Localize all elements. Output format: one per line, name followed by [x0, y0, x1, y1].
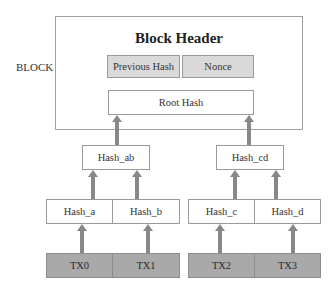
hash-cd-node: Hash_cd [216, 145, 284, 170]
previous-hash-field: Previous Hash [107, 55, 180, 78]
arrow-up-icon [91, 176, 95, 199]
block-label: BLOCK [16, 61, 53, 73]
arrow-up-icon [146, 230, 150, 253]
root-hash-node: Root Hash [108, 90, 254, 115]
hash-d-node: Hash_d [254, 199, 321, 224]
arrow-up-icon [135, 176, 139, 199]
arrow-up-icon [247, 121, 251, 145]
arrow-up-icon [274, 176, 278, 199]
hash-ab-node: Hash_ab [82, 145, 150, 170]
tx3-node: TX3 [254, 253, 321, 278]
arrow-up-icon [80, 230, 84, 253]
tx0-node: TX0 [46, 253, 113, 278]
tx1-node: TX1 [112, 253, 180, 278]
nonce-field: Nonce [182, 55, 254, 78]
arrow-up-icon [218, 230, 222, 253]
hash-a-node: Hash_a [46, 199, 113, 224]
hash-b-node: Hash_b [112, 199, 180, 224]
arrow-up-icon [233, 176, 237, 199]
block-header-title: Block Header [55, 30, 303, 47]
arrow-up-icon [291, 230, 295, 253]
arrow-up-icon [115, 121, 119, 145]
tx2-node: TX2 [188, 253, 255, 278]
hash-c-node: Hash_c [188, 199, 255, 224]
